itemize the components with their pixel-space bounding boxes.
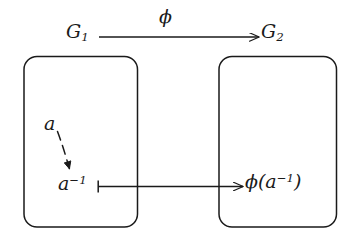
- codomain-box: [219, 57, 337, 228]
- domain-group-label: G1: [66, 22, 89, 41]
- element-a-label: a: [44, 114, 55, 133]
- inverse-relation-arrow: [58, 132, 70, 170]
- group-homomorphism-diagram: G1 G2 ϕ a a−1 ϕ(a−1): [0, 0, 349, 242]
- codomain-group-label: G2: [261, 22, 284, 41]
- element-a-inverse-label: a−1: [58, 174, 87, 193]
- domain-box: [24, 57, 138, 228]
- element-phi-a-inverse-label: ϕ(a−1): [245, 172, 301, 191]
- phi-arrow-label: ϕ: [159, 7, 172, 26]
